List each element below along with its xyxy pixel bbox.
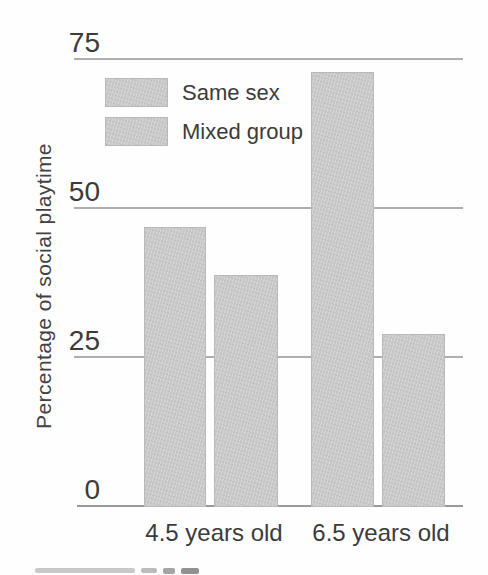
y-tick-label-0: 0 xyxy=(0,475,100,505)
caption-smudge xyxy=(35,568,135,573)
legend-item-mixed-group: Mixed group xyxy=(105,117,303,146)
caption-smudge xyxy=(163,568,175,574)
x-category-label-4-5-years-old: 4.5 years old xyxy=(145,519,282,547)
x-category-label-6-5-years-old: 6.5 years old xyxy=(312,519,449,547)
caption-smudge xyxy=(141,568,157,573)
legend-swatch-mixed-group xyxy=(105,117,168,146)
bar-chart-figure: Percentage of social playtime 0255075 Sa… xyxy=(0,0,488,575)
y-tick-label-50: 50 xyxy=(0,177,100,207)
gridline-50 xyxy=(74,207,463,209)
y-tick-label-75: 75 xyxy=(0,28,100,58)
legend-swatch-same-sex xyxy=(105,78,168,107)
legend-label-same-sex: Same sex xyxy=(182,80,280,106)
caption-smudge xyxy=(181,568,199,574)
legend: Same sex Mixed group xyxy=(105,78,303,156)
bar-mixed-group-4-5-years-old xyxy=(214,275,278,507)
cropped-figure-caption xyxy=(35,568,220,575)
legend-item-same-sex: Same sex xyxy=(105,78,303,107)
bar-same-sex-6-5-years-old xyxy=(311,72,374,507)
y-tick-label-25: 25 xyxy=(0,326,100,356)
bar-same-sex-4-5-years-old xyxy=(144,227,206,507)
bar-mixed-group-6-5-years-old xyxy=(382,334,445,507)
legend-label-mixed-group: Mixed group xyxy=(182,119,303,145)
gridline-75 xyxy=(74,58,463,60)
